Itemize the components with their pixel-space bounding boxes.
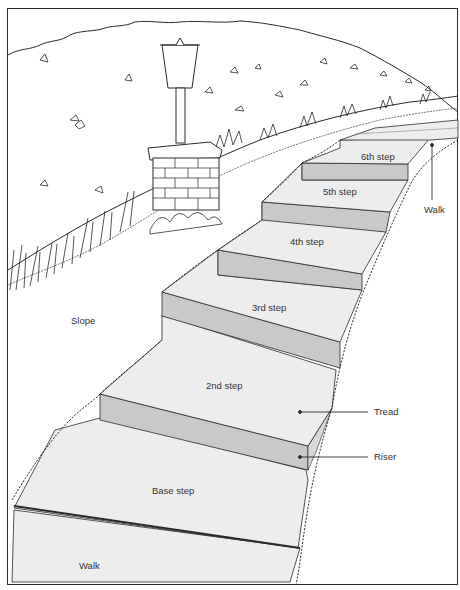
label-tread: Tread bbox=[374, 406, 398, 417]
label-4th-step: 4th step bbox=[290, 236, 324, 247]
label-walk-top: Walk bbox=[424, 204, 445, 215]
brick-cap bbox=[148, 142, 222, 160]
lamp-post bbox=[148, 38, 222, 210]
label-5th-step: 5th step bbox=[323, 186, 357, 197]
walk-top bbox=[340, 120, 458, 140]
6th-step-riser bbox=[302, 163, 408, 180]
label-base-step: Base step bbox=[152, 485, 194, 496]
brick-pillar bbox=[153, 158, 219, 210]
label-slope: Slope bbox=[71, 315, 95, 326]
label-6th-step: 6th step bbox=[361, 151, 395, 162]
label-walk-bottom: Walk bbox=[79, 560, 100, 571]
steps-illustration bbox=[0, 0, 460, 590]
label-riser: Riser bbox=[374, 451, 396, 462]
label-3rd-step: 3rd step bbox=[252, 302, 286, 313]
label-2nd-step: 2nd step bbox=[206, 380, 242, 391]
